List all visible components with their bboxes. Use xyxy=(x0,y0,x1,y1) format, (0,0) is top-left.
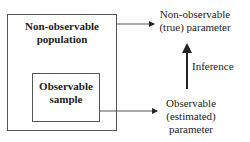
inference-label: Inference xyxy=(192,60,242,73)
sample-label-line2: sample xyxy=(32,93,100,106)
population-label-line2: population xyxy=(7,33,117,46)
estimated-parameter-line3: parameter xyxy=(158,123,224,136)
true-parameter-line2: (true) parameter xyxy=(150,21,240,34)
population-label: Non-observable population xyxy=(7,20,117,46)
population-label-line1: Non-observable xyxy=(7,20,117,33)
sample-label: Observable sample xyxy=(32,80,100,106)
true-parameter-label: Non-observable (true) parameter xyxy=(150,8,240,34)
true-parameter-line1: Non-observable xyxy=(150,8,240,21)
estimated-parameter-line2: (estimated) xyxy=(158,110,224,123)
sample-label-line1: Observable xyxy=(32,80,100,93)
estimated-parameter-label: Observable (estimated) parameter xyxy=(158,97,224,136)
estimated-parameter-line1: Observable xyxy=(158,97,224,110)
